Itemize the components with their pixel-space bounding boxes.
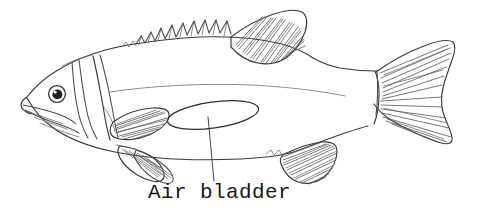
air-bladder-leader-line	[208, 117, 214, 181]
anal-fin	[266, 142, 337, 184]
eye-glint-icon	[54, 91, 57, 94]
caudal-fin	[374, 41, 455, 144]
fish-eye	[49, 86, 66, 103]
air-bladder-label: Air bladder	[148, 180, 348, 206]
fish-anatomy-figure: Air bladder	[0, 0, 478, 218]
fish-head	[21, 55, 118, 140]
pelvic-fin	[116, 145, 173, 183]
soft-dorsal-fin	[231, 10, 307, 64]
air-bladder-ellipse	[166, 96, 261, 135]
air-bladder-shape	[166, 96, 261, 135]
pectoral-fin	[110, 108, 169, 140]
lateral-line	[110, 84, 345, 96]
eye-pupil	[53, 90, 63, 100]
